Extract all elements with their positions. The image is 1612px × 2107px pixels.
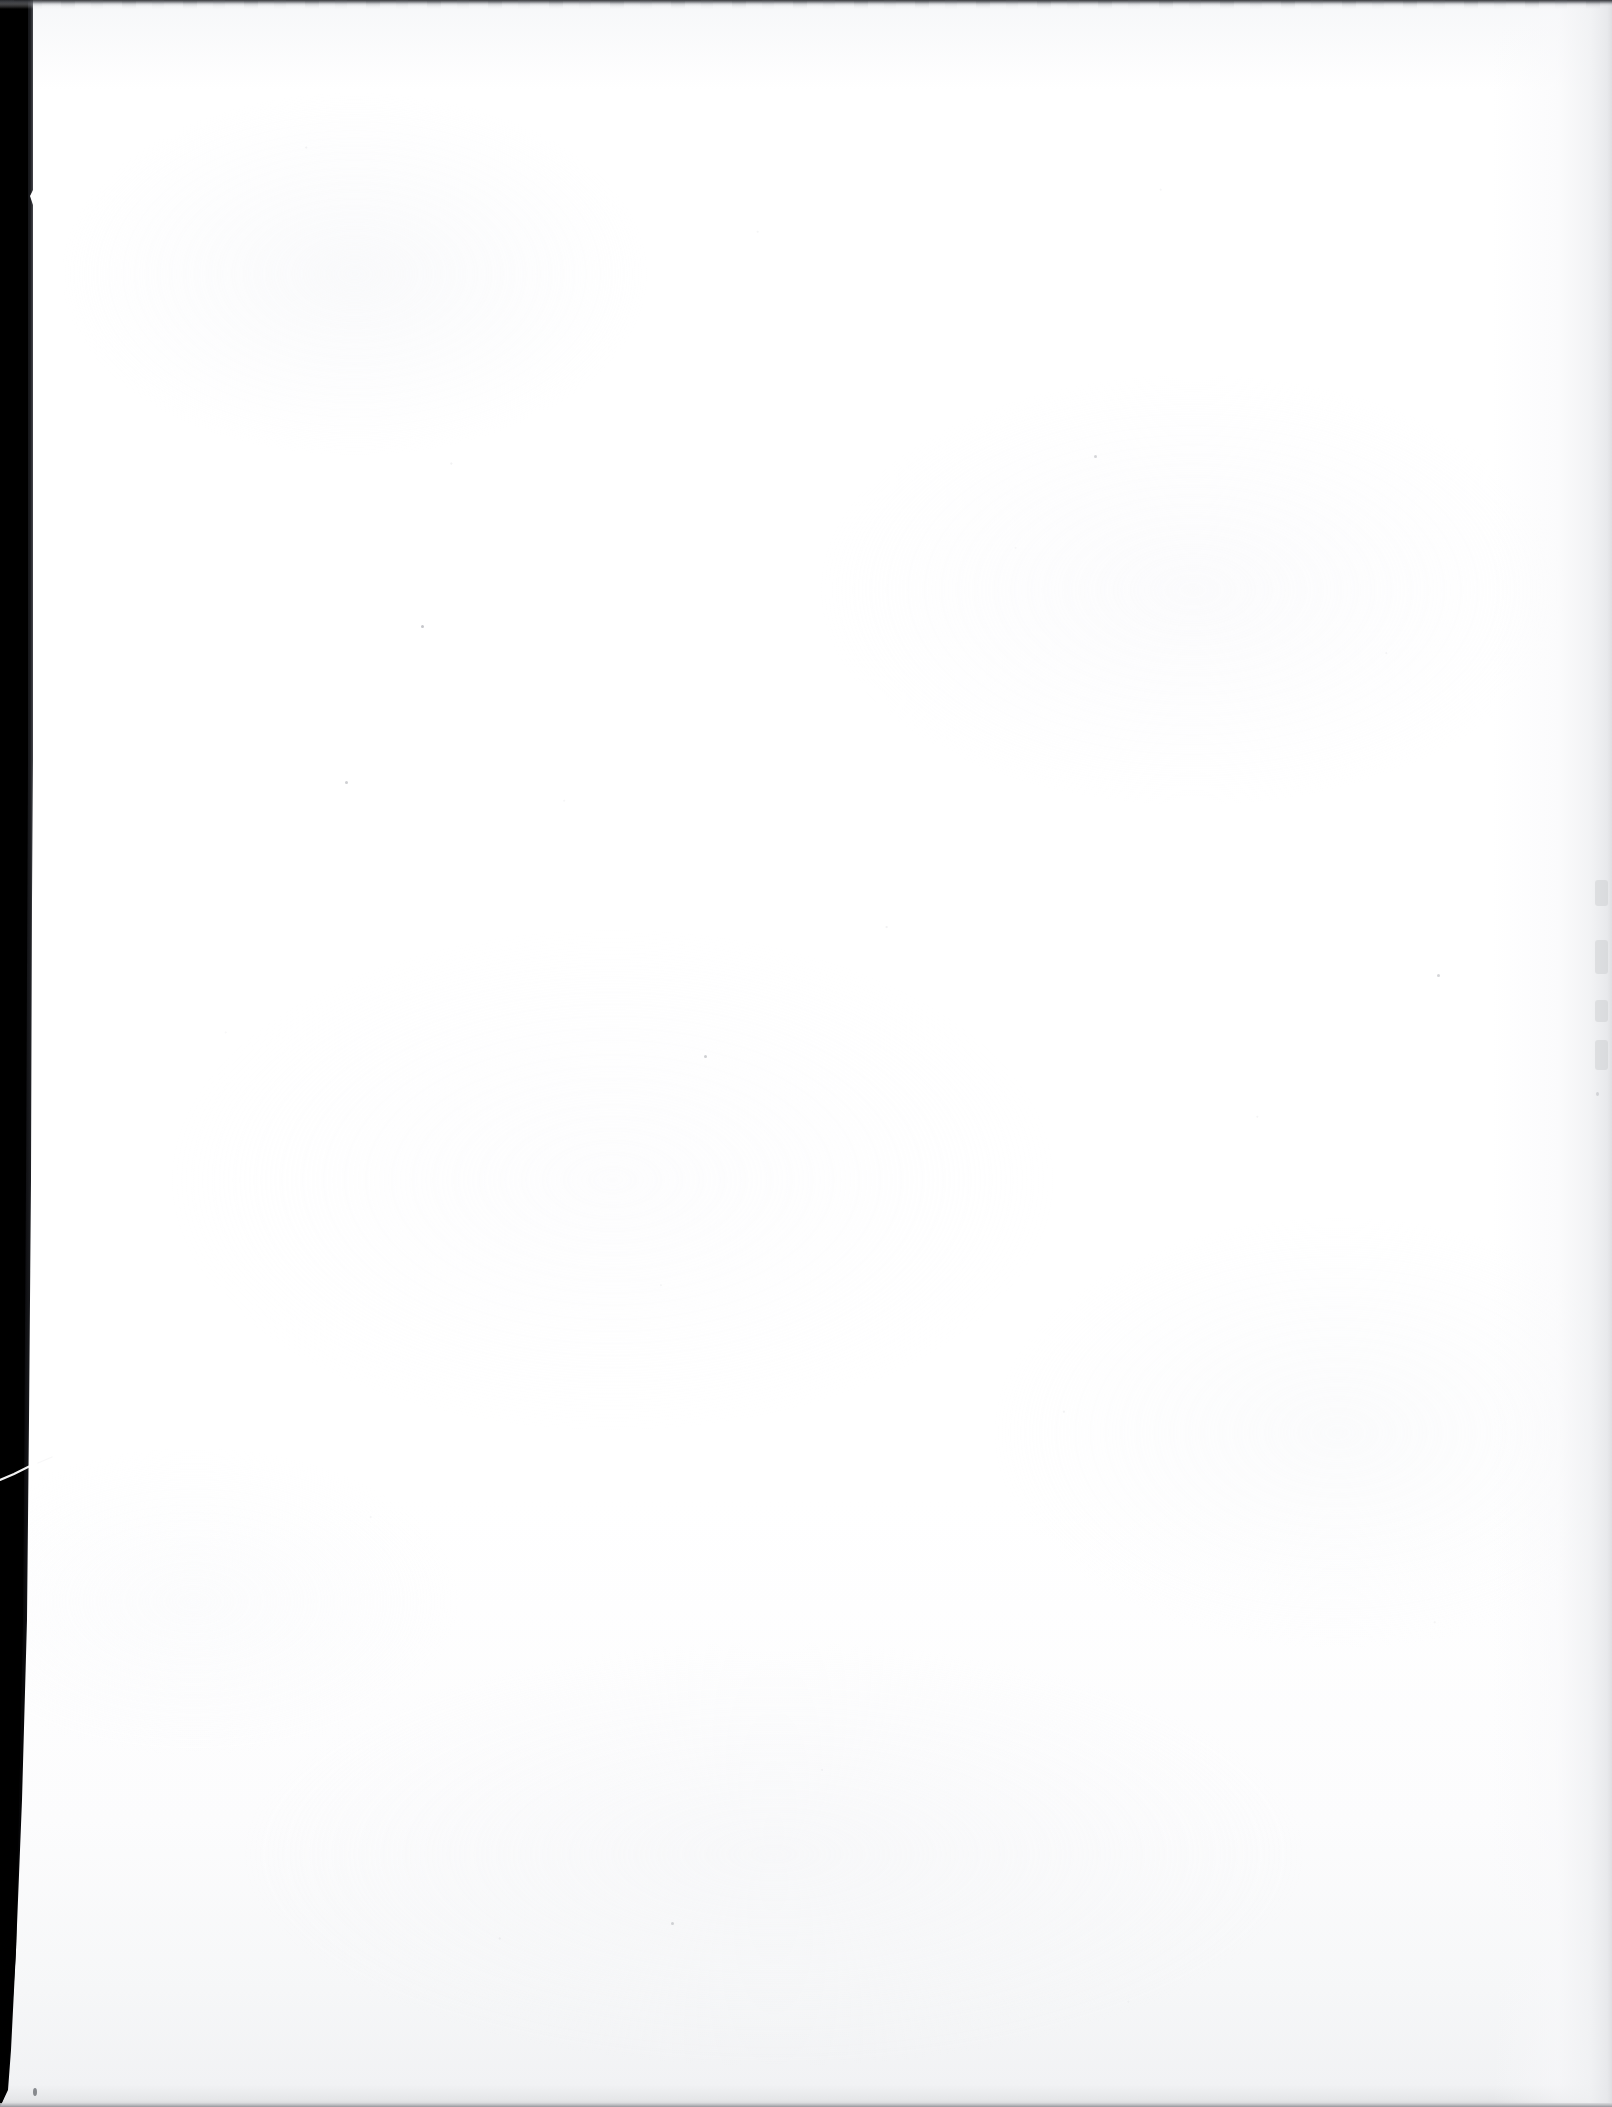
right-margin-scuff — [1595, 1040, 1608, 1070]
right-margin-scuff — [1595, 1000, 1608, 1022]
right-margin-scuff — [1595, 940, 1608, 974]
paper-sheet — [0, 0, 1612, 2107]
right-margin-scuff — [1595, 880, 1608, 906]
paper-fleck — [1596, 1092, 1599, 1096]
page-content-area — [33, 9, 1595, 2099]
scanned-page — [0, 0, 1612, 2107]
